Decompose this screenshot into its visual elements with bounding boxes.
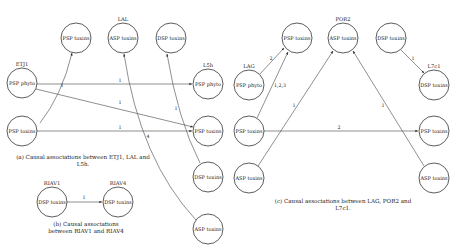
svg-text:ASP toxins: ASP toxins <box>328 35 357 41</box>
caption-b-line2: between RIAV1 and RIAV4 <box>40 228 132 235</box>
panel-c-nodes: PSP phyto PSP toxins ASP toxins DSP toxi… <box>234 23 449 193</box>
node-a-l5h-psp-phyto: PSP phyto <box>193 69 223 99</box>
panel-c-edge-labels: 2 1,2,3 1 1 1 2 <box>269 56 414 130</box>
node-c-lag-psp-phyto: PSP phyto <box>234 70 264 100</box>
edge-label: 4 <box>146 134 149 139</box>
svg-text:PSP toxins: PSP toxins <box>9 128 36 134</box>
node-c-right-psp-toxins: PSP toxins <box>419 116 449 146</box>
node-b-riav4-dsp-toxins: DSP toxins <box>103 187 133 217</box>
node-c-left-psp-toxins: PSP toxins <box>234 116 264 146</box>
site-label-lag: LAG <box>243 63 254 69</box>
svg-text:ASP toxins: ASP toxins <box>193 226 222 232</box>
node-a-etj1-psp-phyto: PSP phyto <box>7 68 37 98</box>
edge-label: 1 <box>411 56 414 61</box>
site-label-etj1: ETJ1 <box>16 61 29 68</box>
site-label-riav4: RIAV4 <box>110 180 127 186</box>
edge-a-etj1-phyto-to-l5h-psp-toxins <box>36 89 193 127</box>
edge-label: 2 <box>337 125 340 130</box>
panel-b-edges: 1 <box>67 195 102 202</box>
panel-c-edges <box>257 48 424 166</box>
svg-text:PSP phyto: PSP phyto <box>9 80 35 87</box>
svg-text:DSP toxins: DSP toxins <box>104 199 132 205</box>
node-a-l5h-dsp-toxins: DSP toxins <box>193 162 223 192</box>
node-a-etj1-psp-toxins: PSP toxins <box>7 116 37 146</box>
svg-text:ASP toxins: ASP toxins <box>419 175 448 181</box>
node-a-l5h-asp-toxins: ASP toxins <box>193 214 223 244</box>
node-c-por2-asp-toxins: ASP toxins <box>328 23 358 53</box>
caption-panel-c: (c) Causal associations between LAG, POR… <box>268 198 418 212</box>
edge-c-left-asp-toxins-to-por2-asp <box>258 51 333 166</box>
caption-a-line2: L5h. <box>8 161 158 168</box>
edge-a-asp-toxins-to-lal-asp-toxins <box>124 54 196 220</box>
edge-c-lag-phyto-to-top-psp-toxins <box>260 48 284 74</box>
panel-a-edge-labels: 1 1 1 1 4 1 <box>60 78 177 139</box>
edge-c-right-asp-toxins-to-por2-asp <box>353 51 424 166</box>
svg-text:DSP toxins: DSP toxins <box>377 35 405 41</box>
edge-a-dsp-toxins-to-top-dsp-toxins <box>167 54 200 163</box>
edge-label: 1 <box>118 100 121 105</box>
svg-text:DSP toxins: DSP toxins <box>194 174 222 180</box>
node-c-top-dsp-toxins: DSP toxins <box>376 23 406 53</box>
edge-a-psp-toxins-to-top-psp-toxins <box>40 53 72 123</box>
caption-c-line1: (c) Causal associations between LAG, POR… <box>268 198 418 205</box>
svg-text:PSP toxins: PSP toxins <box>284 35 311 41</box>
edge-label: 1,2,3 <box>274 83 286 88</box>
edge-label: 1 <box>118 125 121 130</box>
node-a-top-psp-toxins: PSP toxins <box>61 23 91 53</box>
site-label-riav1: RIAV1 <box>44 180 61 186</box>
site-label-lal: LAL <box>118 16 129 22</box>
edge-c-top-dsp-to-l7c1-dsp <box>401 50 424 73</box>
caption-panel-b: (b) Causal associations between RIAV1 an… <box>40 221 132 235</box>
caption-c-line2: L7c1. <box>268 205 418 212</box>
site-label-por2: POR2 <box>336 16 351 22</box>
svg-text:PSP toxins: PSP toxins <box>195 128 222 134</box>
caption-panel-a: (a) Causal associations between ETJ1, LA… <box>8 154 158 168</box>
svg-text:DSP toxins: DSP toxins <box>420 82 448 88</box>
caption-b-line1: (b) Causal associations <box>40 221 132 228</box>
node-b-riav1-dsp-toxins: DSP toxins <box>37 187 67 217</box>
svg-text:PSP toxins: PSP toxins <box>421 128 448 134</box>
caption-a-line1: (a) Causal associations between ETJ1, LA… <box>8 154 158 161</box>
node-c-right-asp-toxins: ASP toxins <box>419 163 449 193</box>
edge-label: 1 <box>174 106 177 111</box>
edge-label: 1 <box>381 103 384 108</box>
node-a-l5h-psp-toxins: PSP toxins <box>193 116 223 146</box>
svg-text:DSP toxins: DSP toxins <box>157 35 185 41</box>
svg-text:PSP toxins: PSP toxins <box>63 35 90 41</box>
svg-text:PSP phyto: PSP phyto <box>236 82 262 89</box>
svg-text:ASP toxins: ASP toxins <box>234 175 263 181</box>
node-c-left-asp-toxins: ASP toxins <box>234 163 264 193</box>
edge-label: 1 <box>60 83 63 88</box>
site-label-l7c1: L7c1 <box>428 63 441 69</box>
svg-text:PSP phyto: PSP phyto <box>195 81 221 88</box>
node-a-top-dsp-toxins: DSP toxins <box>156 23 186 53</box>
edge-label: 1 <box>82 195 85 200</box>
edge-label: 1 <box>292 103 295 108</box>
svg-text:PSP toxins: PSP toxins <box>236 128 263 134</box>
node-c-l7c1-dsp-toxins: DSP toxins <box>419 70 449 100</box>
svg-text:DSP toxins: DSP toxins <box>38 199 66 205</box>
edge-label: 2 <box>269 56 272 61</box>
edge-label: 1 <box>118 78 121 83</box>
node-c-top-psp-toxins: PSP toxins <box>282 23 312 53</box>
site-label-l5h: L5h <box>203 62 214 68</box>
svg-text:ASP toxins: ASP toxins <box>108 35 137 41</box>
node-a-lal-asp-toxins: ASP toxins <box>108 23 138 53</box>
causal-diagram-canvas: 1 1 1 1 4 1 1 2 1,2,3 1 1 1 2 ETJ1 LAL L… <box>0 0 459 251</box>
